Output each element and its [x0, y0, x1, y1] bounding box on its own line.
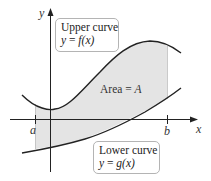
- lower-curve-title: Lower curve: [99, 144, 155, 157]
- y-axis-arrow-icon: [48, 8, 54, 16]
- upper-curve-equation: y = f(x): [61, 34, 114, 47]
- bound-b-label: b: [164, 124, 170, 138]
- area-label-prefix: Area =: [100, 83, 135, 95]
- y-axis-label: y: [38, 6, 45, 20]
- upper-eq-arg: (x): [82, 34, 95, 46]
- area-label-var: A: [134, 83, 143, 95]
- x-axis-label: x: [195, 122, 202, 136]
- upper-eq-equals: =: [66, 34, 78, 46]
- upper-curve-callout: Upper curve y = f(x): [55, 18, 119, 52]
- lower-curve-equation: y = g(x): [99, 157, 155, 170]
- area-label: Area = A: [100, 83, 143, 95]
- lower-curve-callout: Lower curve y = g(x): [93, 141, 160, 174]
- lower-eq-equals: =: [104, 157, 116, 169]
- lower-eq-arg: (x): [122, 157, 135, 169]
- bound-a-label: a: [30, 123, 36, 137]
- upper-curve-title: Upper curve: [61, 21, 114, 34]
